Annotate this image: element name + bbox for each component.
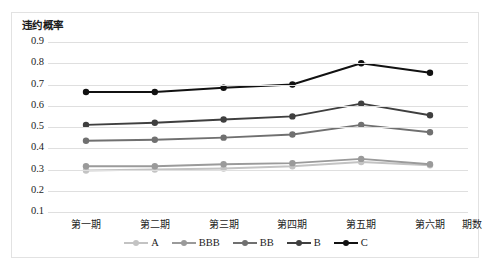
legend-item-bb[interactable]: BB <box>233 237 274 248</box>
x-axis-tick-labels: 期数 第一期第二期第三期第四期第五期第六期 <box>48 216 488 234</box>
data-point <box>220 161 226 167</box>
x-tick-label: 第一期 <box>71 216 101 231</box>
legend-item-label: BBB <box>199 237 220 248</box>
y-tick-label: 0.1 <box>18 205 44 216</box>
legend-swatch-icon <box>334 238 358 247</box>
x-tick-label: 第三期 <box>209 216 239 231</box>
legend-swatch-icon <box>124 238 148 247</box>
plot-area <box>48 42 468 212</box>
data-point <box>427 129 433 135</box>
gridline <box>48 170 468 171</box>
data-point <box>220 116 226 122</box>
data-point <box>427 161 433 167</box>
x-tick-label: 第六期 <box>415 216 445 231</box>
data-point <box>289 113 295 119</box>
gridline <box>48 85 468 86</box>
x-tick-label: 第四期 <box>277 216 307 231</box>
legend-item-label: B <box>314 237 321 248</box>
gridline <box>48 127 468 128</box>
legend-item-b[interactable]: B <box>287 237 321 248</box>
legend-item-label: C <box>361 237 368 248</box>
legend-item-bbb[interactable]: BBB <box>172 237 220 248</box>
legend-swatch-icon <box>287 238 311 247</box>
data-point <box>427 70 433 76</box>
data-point <box>358 156 364 162</box>
legend-swatch-icon <box>233 238 257 247</box>
data-point <box>220 134 226 140</box>
gridline <box>48 191 468 192</box>
data-point <box>289 160 295 166</box>
chart-container: 违约概率 0.90.80.70.60.50.40.30.20.1 期数 第一期第… <box>11 12 479 258</box>
data-point <box>152 137 158 143</box>
series-line-c <box>86 63 430 92</box>
data-point <box>83 138 89 144</box>
data-point <box>152 89 158 95</box>
y-tick-label: 0.8 <box>18 56 44 67</box>
data-point <box>152 120 158 126</box>
y-tick-label: 0.7 <box>18 78 44 89</box>
gridline <box>48 42 468 43</box>
legend-item-a[interactable]: A <box>124 237 159 248</box>
x-tick-label: 第二期 <box>140 216 170 231</box>
legend-swatch-icon <box>172 238 196 247</box>
gridline <box>48 106 468 107</box>
legend-item-label: BB <box>260 237 274 248</box>
data-point <box>83 89 89 95</box>
legend-item-label: A <box>151 237 159 248</box>
gridline <box>48 63 468 64</box>
legend-item-c[interactable]: C <box>334 237 368 248</box>
series-line-b <box>86 104 430 125</box>
data-point <box>289 131 295 137</box>
y-tick-label: 0.6 <box>18 99 44 110</box>
y-tick-label: 0.4 <box>18 141 44 152</box>
gridline <box>48 148 468 149</box>
y-tick-label: 0.3 <box>18 163 44 174</box>
y-axis-tick-labels: 0.90.80.70.60.50.40.30.20.1 <box>16 42 44 212</box>
y-axis-title: 违约概率 <box>22 17 64 32</box>
chart-legend: ABBBBBBC <box>12 237 480 248</box>
x-tick-label: 第五期 <box>346 216 376 231</box>
y-tick-label: 0.9 <box>18 35 44 46</box>
y-tick-label: 0.5 <box>18 120 44 131</box>
data-point <box>427 112 433 118</box>
y-tick-label: 0.2 <box>18 184 44 195</box>
gridline <box>48 212 468 213</box>
x-axis-title: 期数 <box>462 216 482 231</box>
